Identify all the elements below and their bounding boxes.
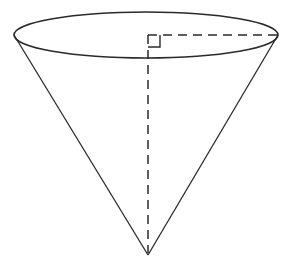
cone-right-slant-edge xyxy=(148,35,278,255)
right-angle-marker xyxy=(148,35,160,47)
cone-left-slant-edge xyxy=(14,35,148,255)
cone-diagram xyxy=(0,0,291,265)
